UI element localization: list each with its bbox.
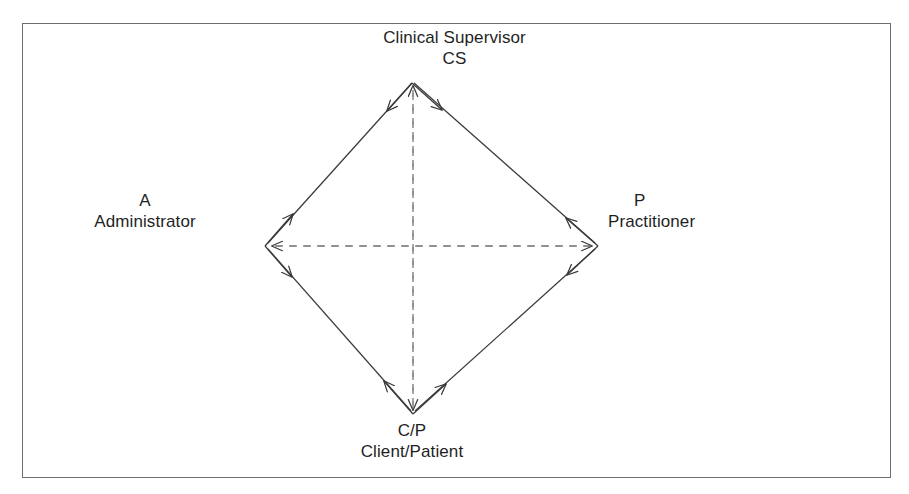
node-name-client-patient: Client/Patient	[0, 442, 824, 463]
node-label-client-patient: C/P Client/Patient	[0, 421, 824, 462]
edge-p-cp	[413, 246, 598, 414]
edge-cs-p	[412, 83, 598, 246]
edge-cs-a	[265, 83, 412, 246]
node-name-practitioner: Practitioner	[608, 212, 878, 233]
node-code-administrator: A	[30, 191, 260, 212]
node-name-clinical-supervisor: Clinical Supervisor	[0, 28, 909, 49]
figure-root: Clinical Supervisor CS A Administrator P…	[0, 0, 909, 494]
node-name-administrator: Administrator	[30, 212, 260, 233]
edge-a-cp	[265, 246, 413, 414]
node-code-client-patient: C/P	[0, 421, 824, 442]
node-label-clinical-supervisor: Clinical Supervisor CS	[0, 28, 909, 69]
node-code-practitioner: P	[608, 191, 878, 212]
node-label-administrator: A Administrator	[30, 191, 260, 232]
node-code-clinical-supervisor: CS	[0, 49, 909, 70]
relationship-diamond-diagram	[0, 0, 909, 494]
node-label-practitioner: P Practitioner	[604, 191, 878, 232]
